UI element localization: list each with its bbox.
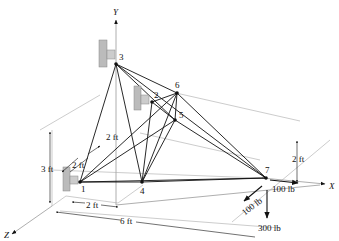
load-z-label: 100 lb	[240, 195, 264, 217]
load-y-label: 300 lb	[258, 223, 281, 233]
node-5	[173, 118, 177, 122]
member-6-7	[177, 93, 266, 178]
truss-diagram: Y X Z 1234567	[0, 0, 339, 241]
member-3-7	[116, 64, 266, 178]
node-label-2: 2	[154, 90, 159, 100]
dim-height-label: 3 ft	[41, 164, 54, 174]
dim-x-total-label: 6 ft	[120, 216, 133, 226]
node-2	[150, 100, 154, 104]
dim-z-lower-label: 2 ft	[72, 160, 85, 170]
node-7	[264, 176, 268, 180]
node-3	[114, 62, 118, 66]
member-3-1	[80, 64, 116, 182]
truss-members	[80, 64, 266, 182]
member-5-7	[175, 120, 266, 178]
node-4	[140, 180, 144, 184]
member-1-6	[80, 93, 177, 182]
member-3-4	[116, 64, 142, 182]
member-3-5	[116, 64, 175, 120]
y-axis-label: Y	[113, 7, 119, 17]
node-label-6: 6	[175, 80, 180, 90]
node-label-3: 3	[119, 52, 124, 62]
dimension-lines	[50, 132, 297, 237]
node-6	[175, 91, 179, 95]
z-axis	[12, 206, 52, 234]
member-4-5	[142, 120, 175, 182]
dim-x-1-4-label: 2 ft	[86, 200, 99, 210]
x-axis-label: X	[328, 181, 335, 191]
support-node-3	[99, 40, 115, 67]
dim-y-7-label: 2 ft	[292, 154, 305, 164]
node-label-5: 5	[179, 110, 184, 120]
member-3-6	[116, 64, 177, 93]
node-label-7: 7	[265, 165, 270, 175]
dim-z-upper-label: 2 ft	[106, 132, 119, 142]
node-label-4: 4	[140, 186, 145, 196]
load-x-label: 100 lb	[272, 184, 295, 194]
node-label-1: 1	[81, 184, 86, 194]
support-node-2	[134, 86, 149, 110]
z-axis-label: Z	[4, 230, 10, 240]
